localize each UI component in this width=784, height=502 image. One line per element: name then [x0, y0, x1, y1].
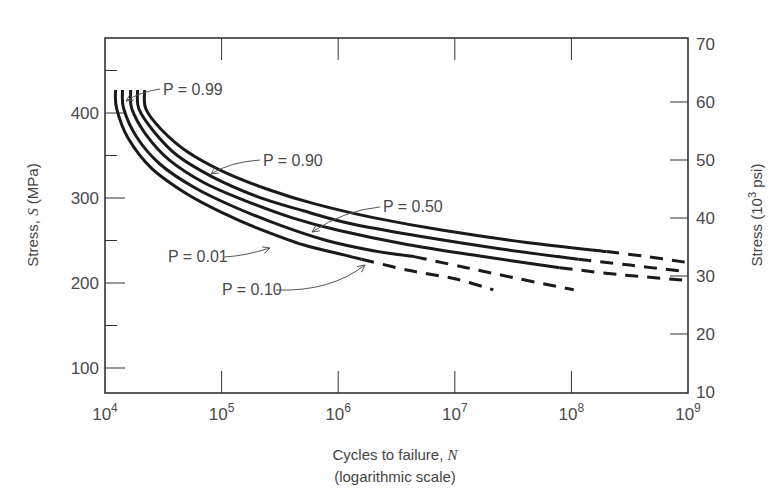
right-y-tick-label: 40	[696, 209, 715, 228]
curve-annotations: P = 0.99P = 0.90P = 0.50P = 0.01P = 0.10	[126, 81, 443, 298]
right-y-tick-label: 70	[696, 35, 715, 54]
right-y-tick-label: 20	[696, 325, 715, 344]
x-tick-label: 106	[325, 401, 351, 424]
annotation-090: P = 0.90	[211, 152, 323, 174]
annotation-001: P = 0.01	[168, 247, 270, 265]
y-tick-label: 200	[71, 274, 99, 293]
s-n-fatigue-chart: 104105106107108109 100200300400 10203040…	[0, 0, 784, 502]
right-y-axis-ticks: 10203040506070	[670, 35, 715, 402]
left-y-axis-ticks: 100200300400	[71, 71, 125, 379]
curve-dashed-extrapolation	[414, 257, 574, 290]
curve-dashed-extrapolation	[362, 259, 494, 290]
annotation-label: P = 0.99	[163, 81, 223, 98]
x-axis-subtitle: (logarithmic scale)	[334, 468, 456, 485]
left-y-axis-title: Stress, S (MPa)	[24, 163, 41, 266]
annotation-arrow-line	[224, 248, 270, 257]
x-tick-label: 107	[442, 401, 468, 424]
annotation-arrow-line	[276, 265, 365, 290]
curve-solid-segment	[115, 90, 361, 259]
x-tick-label: 109	[675, 401, 701, 424]
annotation-label: P = 0.50	[383, 198, 443, 215]
annotation-arrow-line	[211, 160, 260, 174]
right-y-tick-label: 60	[696, 93, 715, 112]
right-y-axis-title: Stress (103 psi)	[746, 164, 765, 267]
y-tick-label: 400	[71, 104, 99, 123]
annotation-010: P = 0.10	[222, 265, 365, 298]
y-tick-label: 100	[71, 359, 99, 378]
annotation-label: P = 0.01	[168, 248, 228, 265]
y-tick-label: 300	[71, 189, 99, 208]
x-tick-label: 104	[92, 401, 118, 424]
right-y-tick-label: 30	[696, 267, 715, 286]
curve-dashed-extrapolation	[606, 252, 688, 263]
curve-dashed-extrapolation	[578, 259, 688, 272]
right-y-tick-label: 50	[696, 151, 715, 170]
right-y-tick-label: 10	[696, 383, 715, 402]
x-axis-title: Cycles to failure, N	[332, 446, 458, 463]
annotation-label: P = 0.90	[263, 152, 323, 169]
x-tick-label: 105	[209, 401, 235, 424]
annotation-label: P = 0.10	[222, 281, 282, 298]
curve-solid-segment	[130, 90, 559, 268]
x-tick-label: 108	[559, 401, 585, 424]
annotation-099: P = 0.99	[126, 81, 223, 101]
